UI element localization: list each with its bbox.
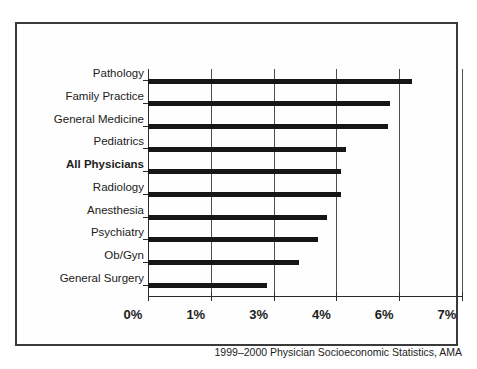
bar-all-physicians [148,169,341,174]
bar-pediatrics [148,147,346,152]
y-tick-1 [143,103,148,104]
x-tick-2 [274,292,275,301]
category-label-pathology: Pathology [24,67,144,79]
gridline-6pct [399,69,400,296]
category-label-general-surgery: General Surgery [24,272,144,284]
x-tick-label-2: 3% [229,307,289,322]
bar-psychiatry [148,237,318,242]
bar-ob-gyn [148,260,299,265]
y-tick-0 [143,80,148,81]
category-label-all-physicians: All Physicians [24,158,144,170]
bar-family-practice [148,101,390,106]
y-tick-7 [143,239,148,240]
category-label-ob-gyn: Ob/Gyn [24,249,144,261]
category-label-general-medicine: General Medicine [24,113,144,125]
category-label-pediatrics: Pediatrics [24,135,144,147]
x-axis-line [148,296,463,297]
x-tick-label-0: 0% [103,307,163,322]
bar-anesthesia [148,215,327,220]
x-tick-label-3: 4% [291,307,351,322]
y-tick-9 [143,285,148,286]
x-tick-5 [462,292,463,301]
y-tick-4 [143,171,148,172]
category-label-psychiatry: Psychiatry [24,226,144,238]
bar-general-medicine [148,124,388,129]
category-axis-labels: PathologyFamily PracticeGeneral Medicine… [20,69,144,296]
category-label-anesthesia: Anesthesia [24,204,144,216]
category-label-family-practice: Family Practice [24,90,144,102]
source-note: 1999–2000 Physician Socioeconomic Statis… [17,346,462,358]
y-tick-8 [143,262,148,263]
x-tick-label-5: 7% [417,307,477,322]
x-tick-1 [211,292,212,301]
y-tick-5 [143,194,148,195]
bar-pathology [148,79,412,84]
x-tick-3 [336,292,337,301]
bar-general-surgery [148,283,267,288]
chart-figure: PathologyFamily PracticeGeneral Medicine… [0,0,477,369]
plot-area [148,69,462,296]
category-label-radiology: Radiology [24,181,144,193]
gridline-7pct [462,69,463,296]
x-tick-4 [399,292,400,301]
y-tick-6 [143,217,148,218]
x-tick-0 [148,292,149,301]
x-tick-label-4: 6% [354,307,414,322]
x-tick-label-1: 1% [166,307,226,322]
y-tick-3 [143,148,148,149]
bar-radiology [148,192,341,197]
figure-frame: PathologyFamily PracticeGeneral Medicine… [15,22,458,346]
y-tick-2 [143,126,148,127]
